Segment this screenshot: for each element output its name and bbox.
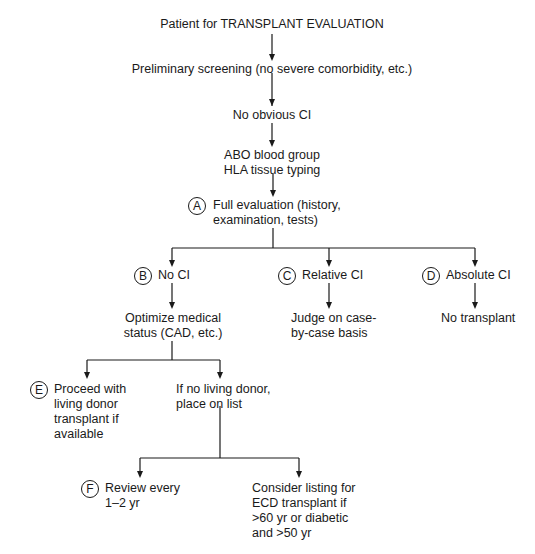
node-full-evaluation-line1: Full evaluation (history, (213, 198, 341, 213)
node-optimize-line1: Optimize medical (125, 311, 221, 326)
node-list-line1: If no living donor, (176, 382, 271, 397)
node-ecd-line3: >60 yr or diabetic (252, 511, 348, 526)
marker-e: E (30, 381, 48, 399)
marker-b: B (134, 267, 152, 285)
node-proceed-line3: transplant if (54, 412, 119, 427)
node-review-line1: Review every (105, 481, 180, 496)
node-hla-tissue-typing: HLA tissue typing (224, 163, 321, 178)
node-judge-line1: Judge on case- (291, 311, 376, 326)
node-judge-line2: by-case basis (291, 326, 367, 341)
node-full-evaluation-line2: examination, tests) (213, 213, 318, 228)
node-no-ci: No CI (158, 268, 190, 283)
marker-d: D (422, 267, 440, 285)
node-proceed-line2: living donor (54, 397, 118, 412)
node-absolute-ci: Absolute CI (446, 268, 511, 283)
marker-c: C (278, 267, 296, 285)
marker-a: A (188, 197, 206, 215)
node-no-obvious-ci: No obvious CI (233, 108, 312, 123)
node-preliminary-screening: Preliminary screening (no severe comorbi… (132, 62, 412, 77)
node-list-line2: place on list (176, 397, 242, 412)
marker-f: F (81, 480, 99, 498)
node-relative-ci: Relative CI (302, 268, 363, 283)
node-proceed-line4: available (54, 427, 103, 442)
node-no-transplant: No transplant (441, 311, 515, 326)
node-review-line2: 1–2 yr (105, 496, 140, 511)
node-abo-blood-group: ABO blood group (224, 148, 320, 163)
node-start: Patient for TRANSPLANT EVALUATION (160, 17, 383, 32)
node-proceed-line1: Proceed with (54, 382, 126, 397)
node-ecd-line2: ECD transplant if (252, 496, 346, 511)
node-optimize-line2: status (CAD, etc.) (124, 326, 223, 341)
node-ecd-line4: and >50 yr (252, 526, 311, 541)
node-ecd-line1: Consider listing for (252, 481, 356, 496)
